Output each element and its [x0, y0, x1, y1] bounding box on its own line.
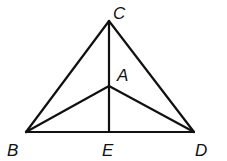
label-d: D — [195, 141, 207, 160]
label-c: C — [113, 4, 126, 23]
segment-ad — [109, 86, 194, 132]
label-e: E — [102, 141, 114, 160]
segment-cb — [26, 21, 109, 132]
geometry-diagram: C A B E D — [0, 0, 227, 161]
segment-ab — [26, 86, 109, 132]
label-a: A — [116, 66, 128, 85]
label-b: B — [7, 141, 18, 160]
